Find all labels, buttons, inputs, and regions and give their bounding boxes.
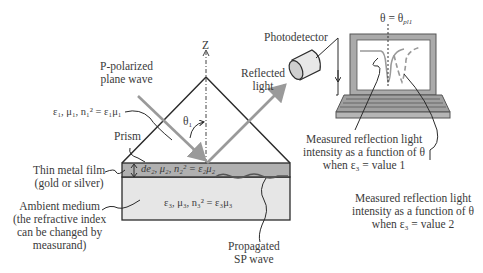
incident-wave-line2: plane wave <box>100 73 153 86</box>
ambient-line3: can be changed by <box>13 226 106 239</box>
curve1-line3: when ε₃ = value 1 <box>303 159 425 172</box>
photodetector <box>286 50 320 82</box>
sp-wave-label: Propagated SP wave <box>228 240 280 266</box>
laptop <box>336 24 450 118</box>
theta-resonance-sub: pl1 <box>403 18 412 26</box>
thin-film-label: Thin metal film (gold or silver) <box>33 164 105 190</box>
curve1-line2: intensity as a function of θ <box>303 146 425 159</box>
reflected-ray <box>207 85 285 163</box>
incident-wave-line1: P-polarized <box>100 60 153 73</box>
thin-film-line1: Thin metal film <box>33 164 105 177</box>
prism-label: Prism <box>114 130 141 143</box>
incident-ray <box>138 96 205 160</box>
ambient-line4: measurand) <box>13 239 106 252</box>
curve2-label: Measured reflection light intensity as a… <box>352 192 474 231</box>
theta1-arc <box>190 122 204 138</box>
photodetector-label: Photodetector <box>264 31 328 44</box>
theta-resonance-base: θ = θ <box>380 12 403 24</box>
reflected-line1: Reflected <box>241 67 285 80</box>
theta-resonance-label: θ = θpl1 <box>380 12 412 29</box>
ambient-line1: Ambient medium <box>13 200 106 213</box>
incident-wave-label: P-polarized plane wave <box>100 60 153 86</box>
theta1-sub: 1 <box>189 121 193 129</box>
z-axis-label: Z <box>202 39 209 52</box>
curve2-line1: Measured reflection light <box>352 192 474 205</box>
curve1-label: Measured reflection light intensity as a… <box>303 133 425 172</box>
sp-wave-line2: SP wave <box>228 253 280 266</box>
ambient-medium-equation: ε₃, μ₃, n₃² = ε₃μ₃ <box>164 197 232 208</box>
prism-medium-equation: ε₁, μ₁, n₁² = ε₁μ₁ <box>53 106 121 117</box>
ambient-label: Ambient medium (the refractive index can… <box>13 200 106 252</box>
thin-film-line2: (gold or silver) <box>33 177 105 190</box>
curve2-line3: when ε₃ = value 2 <box>352 218 474 231</box>
ambient-line2: (the refractive index <box>13 213 106 226</box>
curve1-line1: Measured reflection light <box>303 133 425 146</box>
curve2-line2: intensity as a function of θ <box>352 205 474 218</box>
sp-wave-line1: Propagated <box>228 240 280 253</box>
reflected-light-label: Reflected light <box>241 67 285 93</box>
reflected-line2: light <box>241 80 285 93</box>
metal-film-equation: de₂, μ₂, n₂² = ε₂μ₂ <box>141 163 215 174</box>
theta1-label: θ1 <box>183 115 192 132</box>
